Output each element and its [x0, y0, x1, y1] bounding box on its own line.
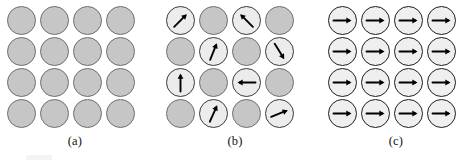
spin-arrow-icon [361, 37, 390, 66]
lattice-cell [231, 6, 264, 37]
lattice-cell [39, 99, 72, 130]
spin-arrow-icon [394, 6, 423, 35]
spin-arrow-icon [232, 68, 261, 97]
panel-a-caption: (a) [0, 134, 150, 149]
lattice-cell [72, 68, 105, 99]
spin-arrow-icon [265, 99, 294, 128]
atom-circle-plain [7, 37, 36, 66]
atom-circle-plain [73, 6, 102, 35]
atom-circle-plain [232, 37, 261, 66]
lattice-grid-b [165, 6, 299, 132]
lattice-cell [39, 6, 72, 37]
lattice-cell [105, 37, 138, 68]
spin-arrow-icon [394, 37, 423, 66]
lattice-cell [264, 37, 297, 68]
spin-arrow-icon [232, 6, 261, 35]
spin-arrow-icon [427, 6, 456, 35]
lattice-cell [426, 99, 459, 130]
atom-circle-plain [199, 68, 228, 97]
lattice-cell [426, 68, 459, 99]
lattice-cell [72, 99, 105, 130]
lattice-cell [105, 6, 138, 37]
lattice-cell [393, 68, 426, 99]
spin-arrow-icon [328, 99, 357, 128]
atom-circle-plain [7, 6, 36, 35]
panel-b: (b) [160, 0, 310, 164]
atom-circle-plain [106, 68, 135, 97]
lattice-cell [327, 99, 360, 130]
lattice-cell [198, 6, 231, 37]
lattice-cell [393, 37, 426, 68]
atom-circle-plain [106, 6, 135, 35]
atom-circle-plain [166, 37, 195, 66]
lattice-grid-c [327, 6, 461, 132]
lattice-cell [327, 68, 360, 99]
lattice-cell [327, 37, 360, 68]
panel-b-caption: (b) [160, 134, 310, 149]
lattice-cell [165, 68, 198, 99]
atom-circle-plain [232, 99, 261, 128]
lattice-cell [327, 6, 360, 37]
atom-circle-plain [40, 99, 69, 128]
atom-circle-plain [265, 6, 294, 35]
lattice-cell [105, 99, 138, 130]
spin-arrow-icon [394, 68, 423, 97]
spin-arrow-icon [427, 99, 456, 128]
lattice-cell [6, 68, 39, 99]
lattice-cell [231, 37, 264, 68]
atom-circle-plain [40, 6, 69, 35]
lattice-grid-a [6, 6, 140, 132]
lattice-cell [165, 99, 198, 130]
lattice-cell [198, 99, 231, 130]
atom-circle-plain [73, 37, 102, 66]
panel-c-caption: (c) [321, 134, 471, 149]
lattice-cell [72, 6, 105, 37]
page-edge-artifact [26, 155, 52, 160]
spin-arrow-icon [166, 68, 195, 97]
lattice-cell [165, 37, 198, 68]
lattice-cell [264, 68, 297, 99]
atom-circle-plain [40, 68, 69, 97]
atom-circle-plain [7, 68, 36, 97]
atom-circle-plain [106, 99, 135, 128]
panel-a: (a) [0, 0, 150, 164]
lattice-cell [264, 99, 297, 130]
atom-circle-plain [265, 68, 294, 97]
atom-circle-plain [73, 68, 102, 97]
spin-arrow-icon [328, 6, 357, 35]
spin-arrow-icon [427, 37, 456, 66]
spin-arrow-icon [394, 99, 423, 128]
atom-circle-plain [7, 99, 36, 128]
spin-arrow-icon [265, 37, 294, 66]
atom-circle-plain [106, 37, 135, 66]
spin-arrow-icon [199, 37, 228, 66]
lattice-cell [198, 37, 231, 68]
atom-circle-plain [166, 99, 195, 128]
lattice-cell [264, 6, 297, 37]
spin-arrow-icon [199, 99, 228, 128]
lattice-cell [39, 68, 72, 99]
lattice-cell [426, 37, 459, 68]
atom-circle-plain [199, 6, 228, 35]
lattice-cell [231, 68, 264, 99]
figure-container: (a) (b) (c) [0, 0, 475, 164]
lattice-cell [360, 99, 393, 130]
lattice-cell [6, 6, 39, 37]
lattice-cell [393, 99, 426, 130]
atom-circle-plain [73, 99, 102, 128]
spin-arrow-icon [361, 68, 390, 97]
spin-arrow-icon [328, 68, 357, 97]
lattice-cell [39, 37, 72, 68]
spin-arrow-icon [166, 6, 195, 35]
lattice-cell [6, 37, 39, 68]
lattice-cell [360, 68, 393, 99]
lattice-cell [165, 6, 198, 37]
lattice-cell [231, 99, 264, 130]
lattice-cell [360, 37, 393, 68]
lattice-cell [105, 68, 138, 99]
panel-c: (c) [315, 0, 465, 164]
lattice-cell [72, 37, 105, 68]
lattice-cell [198, 68, 231, 99]
lattice-cell [6, 99, 39, 130]
spin-arrow-icon [361, 99, 390, 128]
